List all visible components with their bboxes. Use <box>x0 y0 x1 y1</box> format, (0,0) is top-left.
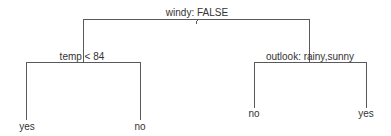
right-split-label: outlook: rainy,sunny <box>266 51 354 62</box>
leaf-label: yes <box>19 121 35 132</box>
decision-tree-diagram: windy: FALSE temp < 84 yes no outlook: r… <box>0 0 391 136</box>
right-branch: outlook: rainy,sunny no yes <box>248 19 373 119</box>
leaf-label: yes <box>358 108 374 119</box>
root-split-label: windy: FALSE <box>165 7 229 18</box>
leaf-label: no <box>134 121 146 132</box>
left-branch: temp < 84 yes no <box>19 19 146 132</box>
root-split: windy: FALSE <box>83 7 309 24</box>
leaf-label: no <box>248 108 260 119</box>
left-split-label: temp < 84 <box>60 51 105 62</box>
